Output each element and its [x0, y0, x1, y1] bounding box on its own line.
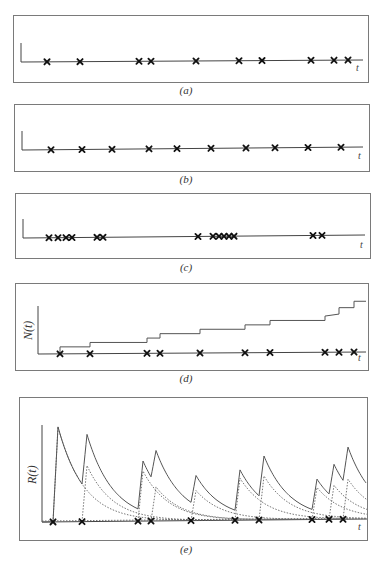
kernel-curve	[235, 478, 367, 520]
caption-d: (d)	[180, 372, 193, 385]
panel-d-t-label: t	[358, 352, 361, 363]
kernel-curve	[151, 487, 308, 521]
figure: t t t t t N(t) R(t) (a) (b) (c) (d) (e)	[0, 0, 385, 567]
panel-e-y-label: R(t)	[25, 465, 39, 485]
kernel-curve	[138, 471, 295, 521]
caption-a: (a)	[180, 84, 193, 97]
event-markers	[44, 57, 356, 524]
panel-e-axis	[42, 425, 367, 522]
axes	[21, 43, 367, 522]
caption-e: (e)	[180, 543, 193, 556]
caption-c: (c)	[180, 261, 193, 274]
counting-process-curve	[60, 301, 366, 354]
caption-b: (b)	[180, 173, 193, 186]
kernel-curve	[343, 479, 367, 519]
curves	[42, 301, 367, 522]
kernel-curve	[82, 466, 239, 522]
panel-b-t-label: t	[358, 150, 361, 161]
panel-b-frame	[15, 105, 370, 172]
panel-d-frame	[16, 284, 369, 371]
panel-c-frame	[16, 194, 371, 259]
panel-e-t-label: t	[358, 521, 361, 532]
panel-b-axis	[22, 131, 363, 150]
rate-curve	[42, 427, 366, 522]
panel-a-frame	[14, 16, 369, 83]
kernel-curve	[329, 485, 367, 519]
panel-d-y-label: N(t)	[21, 321, 35, 341]
panel-c-t-label: t	[360, 239, 363, 250]
panel-a-t-label: t	[356, 62, 359, 73]
